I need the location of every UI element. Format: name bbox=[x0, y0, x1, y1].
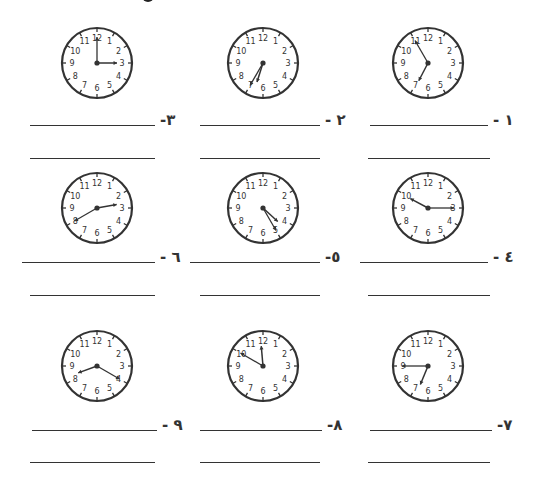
svg-text:9: 9 bbox=[400, 204, 405, 213]
svg-text:9: 9 bbox=[235, 59, 240, 68]
svg-text:1: 1 bbox=[273, 340, 278, 349]
answer-line[interactable] bbox=[370, 125, 488, 126]
svg-text:6: 6 bbox=[425, 387, 430, 396]
svg-text:7: 7 bbox=[248, 226, 253, 235]
answer-line[interactable] bbox=[30, 125, 155, 126]
answer-line[interactable] bbox=[360, 262, 488, 263]
exercise-number-label: ٧- bbox=[497, 416, 512, 434]
svg-text:6: 6 bbox=[425, 84, 430, 93]
answer-line[interactable] bbox=[200, 430, 322, 431]
svg-text:1: 1 bbox=[438, 340, 443, 349]
svg-text:12: 12 bbox=[258, 179, 268, 188]
svg-text:3: 3 bbox=[119, 362, 124, 371]
answer-line[interactable] bbox=[32, 430, 157, 431]
answer-line[interactable] bbox=[22, 262, 155, 263]
answer-line-second[interactable] bbox=[30, 295, 155, 296]
clock-٩: 121234567891011 bbox=[59, 328, 135, 404]
clock-icon: 121234567891011 bbox=[390, 170, 466, 246]
svg-text:12: 12 bbox=[258, 34, 268, 43]
svg-text:11: 11 bbox=[245, 340, 255, 349]
svg-text:10: 10 bbox=[70, 350, 80, 359]
svg-text:4: 4 bbox=[116, 72, 121, 81]
svg-text:6: 6 bbox=[425, 229, 430, 238]
svg-text:7: 7 bbox=[413, 384, 418, 393]
svg-text:7: 7 bbox=[248, 384, 253, 393]
svg-text:9: 9 bbox=[69, 204, 74, 213]
svg-text:8: 8 bbox=[404, 217, 409, 226]
svg-text:2: 2 bbox=[282, 350, 287, 359]
svg-text:6: 6 bbox=[94, 84, 99, 93]
svg-text:5: 5 bbox=[107, 226, 112, 235]
svg-text:9: 9 bbox=[235, 204, 240, 213]
svg-text:1: 1 bbox=[438, 182, 443, 191]
svg-text:4: 4 bbox=[447, 375, 452, 384]
svg-text:4: 4 bbox=[282, 375, 287, 384]
clock-٧: 121234567891011 bbox=[390, 328, 466, 404]
svg-text:4: 4 bbox=[447, 217, 452, 226]
svg-text:12: 12 bbox=[423, 179, 433, 188]
svg-text:3: 3 bbox=[285, 59, 290, 68]
svg-text:8: 8 bbox=[239, 217, 244, 226]
svg-text:10: 10 bbox=[70, 192, 80, 201]
svg-text:8: 8 bbox=[73, 72, 78, 81]
answer-line-second[interactable] bbox=[200, 462, 320, 463]
svg-text:7: 7 bbox=[82, 226, 87, 235]
svg-text:2: 2 bbox=[116, 350, 121, 359]
answer-line[interactable] bbox=[200, 125, 320, 126]
clock-٥: 121234567891011 bbox=[225, 170, 301, 246]
clock-٣: 121234567891011 bbox=[59, 25, 135, 101]
svg-text:1: 1 bbox=[107, 340, 112, 349]
svg-text:4: 4 bbox=[447, 72, 452, 81]
svg-text:11: 11 bbox=[79, 340, 89, 349]
svg-text:5: 5 bbox=[107, 81, 112, 90]
clock-icon: 121234567891011 bbox=[225, 328, 301, 404]
svg-text:10: 10 bbox=[236, 192, 246, 201]
clock-icon: 121234567891011 bbox=[59, 170, 135, 246]
svg-text:5: 5 bbox=[438, 81, 443, 90]
svg-text:4: 4 bbox=[282, 217, 287, 226]
exercise-number-label: ٣- bbox=[160, 111, 175, 129]
svg-text:1: 1 bbox=[107, 37, 112, 46]
svg-text:7: 7 bbox=[82, 384, 87, 393]
answer-line-second[interactable] bbox=[30, 462, 155, 463]
svg-text:4: 4 bbox=[282, 72, 287, 81]
title-fragment bbox=[142, 0, 154, 2]
svg-text:5: 5 bbox=[107, 384, 112, 393]
svg-text:5: 5 bbox=[273, 81, 278, 90]
svg-text:1: 1 bbox=[438, 37, 443, 46]
svg-text:6: 6 bbox=[260, 84, 265, 93]
answer-line-second[interactable] bbox=[368, 295, 490, 296]
clock-٦: 121234567891011 bbox=[59, 170, 135, 246]
exercise-number-label: ٨- bbox=[327, 416, 342, 434]
clock-٢: 121234567891011 bbox=[225, 25, 301, 101]
svg-text:6: 6 bbox=[260, 387, 265, 396]
svg-text:5: 5 bbox=[273, 384, 278, 393]
answer-line[interactable] bbox=[370, 430, 492, 431]
svg-text:8: 8 bbox=[404, 72, 409, 81]
svg-text:6: 6 bbox=[94, 387, 99, 396]
svg-text:9: 9 bbox=[400, 59, 405, 68]
clock-icon: 121234567891011 bbox=[390, 328, 466, 404]
answer-line-second[interactable] bbox=[200, 295, 320, 296]
svg-text:9: 9 bbox=[69, 362, 74, 371]
svg-text:7: 7 bbox=[413, 81, 418, 90]
clock-icon: 121234567891011 bbox=[59, 25, 135, 101]
svg-text:9: 9 bbox=[235, 362, 240, 371]
clock-icon: 121234567891011 bbox=[225, 170, 301, 246]
svg-text:11: 11 bbox=[410, 182, 420, 191]
svg-text:12: 12 bbox=[423, 34, 433, 43]
answer-line-second[interactable] bbox=[368, 462, 490, 463]
svg-text:3: 3 bbox=[285, 204, 290, 213]
svg-text:11: 11 bbox=[245, 37, 255, 46]
svg-text:2: 2 bbox=[116, 47, 121, 56]
svg-text:8: 8 bbox=[239, 375, 244, 384]
svg-text:11: 11 bbox=[245, 182, 255, 191]
clock-٨: 121234567891011 bbox=[225, 328, 301, 404]
svg-text:5: 5 bbox=[438, 226, 443, 235]
svg-text:2: 2 bbox=[282, 47, 287, 56]
answer-line[interactable] bbox=[190, 262, 320, 263]
answer-line-second[interactable] bbox=[30, 158, 155, 159]
answer-line-second[interactable] bbox=[200, 158, 320, 159]
svg-text:7: 7 bbox=[82, 81, 87, 90]
answer-line-second[interactable] bbox=[368, 158, 490, 159]
